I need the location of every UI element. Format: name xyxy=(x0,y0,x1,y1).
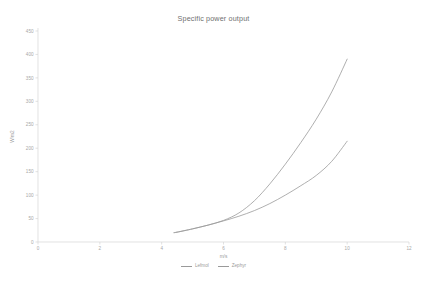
y-axis-tick-label: 400 xyxy=(26,52,34,57)
chart-legend: LefmolZephyr xyxy=(0,264,427,269)
chart-container: Specific power output 050100150200250300… xyxy=(0,0,427,289)
x-axis-title: m/s xyxy=(220,254,228,259)
x-axis-tick-label: 0 xyxy=(37,246,40,251)
y-axis-tick-label: 50 xyxy=(28,216,34,221)
x-axis-tick-label: 6 xyxy=(222,246,225,251)
y-axis-tick-label: 150 xyxy=(26,169,34,174)
plot-area: 050100150200250300350400450024681012m/sW… xyxy=(0,0,427,289)
legend-item-label: Lefmol xyxy=(195,264,209,269)
legend-item[interactable]: Zephyr xyxy=(218,264,246,269)
legend-line-swatch-icon xyxy=(218,266,229,267)
series-line-zephyr xyxy=(174,141,347,232)
series-line-lefmol xyxy=(174,59,347,232)
legend-item[interactable]: Lefmol xyxy=(181,264,209,269)
x-axis-tick-label: 10 xyxy=(345,246,351,251)
y-axis-tick-label: 450 xyxy=(26,29,34,34)
y-axis-tick-label: 350 xyxy=(26,76,34,81)
y-axis-title: W/m2 xyxy=(10,130,15,143)
x-axis-tick-label: 8 xyxy=(284,246,287,251)
y-axis-tick-label: 100 xyxy=(26,193,34,198)
y-axis-tick-label: 200 xyxy=(26,146,34,151)
legend-item-label: Zephyr xyxy=(232,264,246,269)
x-axis-tick-label: 4 xyxy=(160,246,163,251)
legend-line-swatch-icon xyxy=(181,266,192,267)
x-axis-tick-label: 2 xyxy=(99,246,102,251)
x-axis-tick-label: 12 xyxy=(406,246,412,251)
y-axis-tick-label: 300 xyxy=(26,99,34,104)
y-axis-tick-label: 0 xyxy=(31,240,34,245)
y-axis-tick-label: 250 xyxy=(26,122,34,127)
